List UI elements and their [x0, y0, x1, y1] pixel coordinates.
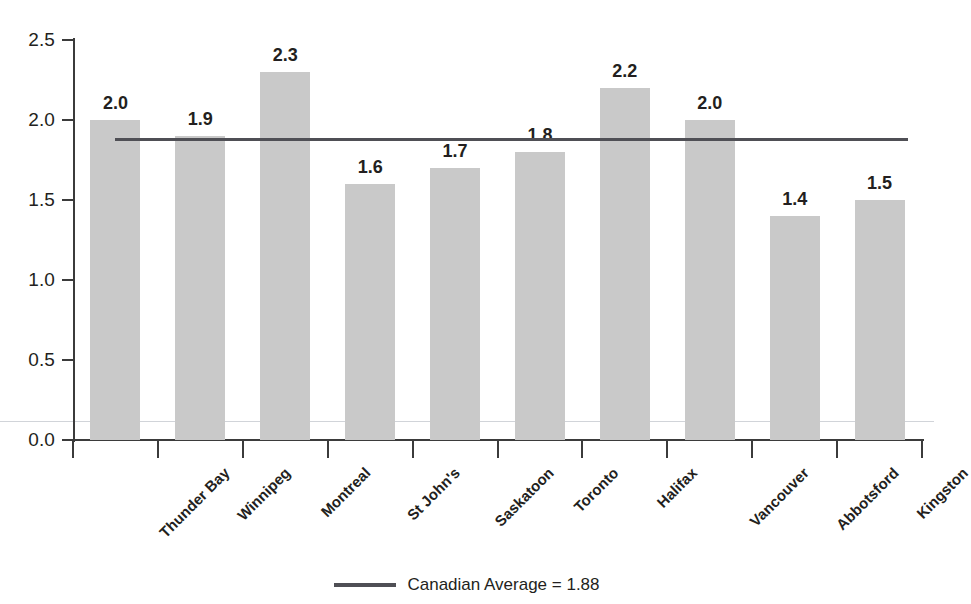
bar-value-label: 1.5: [850, 173, 910, 194]
bar-value-label: 2.3: [255, 45, 315, 66]
y-axis-tick-label: 2.5: [7, 29, 55, 51]
bar: [345, 184, 395, 440]
x-axis-category-label: Saskatoon: [491, 464, 557, 530]
bar: [685, 120, 735, 440]
x-axis-tick: [921, 441, 923, 458]
bar-value-label: 2.2: [595, 61, 655, 82]
y-axis-tick-label: 2.0: [7, 109, 55, 131]
x-axis-tick: [581, 441, 583, 458]
x-axis-category-label: Toronto: [570, 464, 621, 515]
x-axis-tick: [327, 441, 329, 458]
x-axis-category-label: St John's: [404, 464, 463, 523]
bar-value-label: 2.0: [85, 93, 145, 114]
bar-value-label: 1.9: [170, 109, 230, 130]
bar: [515, 152, 565, 440]
bar: [175, 136, 225, 440]
x-axis-category-label: Thunder Bay: [156, 464, 233, 541]
x-axis-tick: [242, 441, 244, 458]
bar-value-label: 1.6: [340, 157, 400, 178]
legend-line-swatch: [334, 583, 396, 587]
bar: [90, 120, 140, 440]
y-axis-tick-label: 0.5: [7, 349, 55, 371]
legend-label: Canadian Average = 1.88: [407, 575, 599, 595]
bar: [770, 216, 820, 440]
bar: [260, 72, 310, 440]
x-axis-category-label: Kingston: [913, 464, 971, 522]
average-reference-line: [115, 138, 907, 141]
x-axis-category-label: Vancouver: [746, 464, 812, 530]
x-axis-category-label: Montreal: [318, 464, 374, 520]
bar-value-label: 1.8: [510, 125, 570, 146]
bar: [855, 200, 905, 440]
x-axis-tick: [412, 441, 414, 458]
x-axis-category-label: Abbotsford: [832, 464, 901, 533]
bar: [430, 168, 480, 440]
y-axis-tick-label: 1.0: [7, 269, 55, 291]
x-axis-tick: [751, 441, 753, 458]
y-axis-tick-label: 1.5: [7, 189, 55, 211]
x-axis-tick: [72, 441, 74, 458]
y-axis-tick-label: 0.0: [7, 429, 55, 451]
x-axis-tick: [836, 441, 838, 458]
x-axis-tick: [157, 441, 159, 458]
legend: Canadian Average = 1.88: [0, 575, 934, 595]
x-axis-tick: [497, 441, 499, 458]
cropped-title-artifact: [0, 0, 934, 7]
bar-value-label: 2.0: [680, 93, 740, 114]
bar-value-label: 1.4: [765, 189, 825, 210]
x-axis-category-label: Halifax: [653, 464, 700, 511]
plot-area: [73, 40, 922, 440]
x-axis-category-label: Winnipeg: [234, 464, 294, 524]
x-axis-tick: [666, 441, 668, 458]
bar-value-label: 1.7: [425, 141, 485, 162]
